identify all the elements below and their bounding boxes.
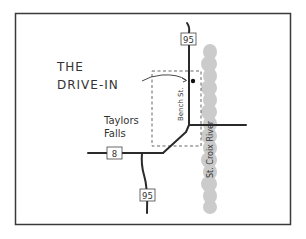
hwy-95-north-shield: 95 [181, 33, 196, 45]
hwy-95-south-shield: 95 [140, 189, 155, 201]
drive-in-marker[interactable] [191, 79, 195, 83]
street-label: Bench St. [177, 88, 185, 121]
hwy-8-label: 8 [112, 149, 117, 159]
title-line-1: THE [56, 60, 84, 74]
title-line-2: DRIVE-IN [57, 78, 119, 92]
hwy-8-shield: 8 [107, 147, 122, 159]
hwy-95-south-label: 95 [142, 191, 153, 201]
town-label-line-1: Taylors [103, 115, 139, 126]
river-label: St. Croix River [206, 120, 215, 178]
map: St. Croix River THE DRIVE-IN Taylors Fal… [0, 0, 306, 239]
town-label-line-2: Falls [104, 128, 126, 139]
hwy-95-north-label: 95 [183, 35, 194, 45]
